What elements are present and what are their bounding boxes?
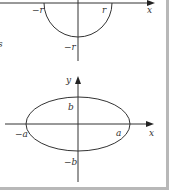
ellipse-figure: y b −a a x −b (5, 75, 154, 182)
circle-figure: −r r x −r s (0, 0, 155, 61)
frame-bottom-border (0, 187, 169, 190)
label-x-bottom: x (149, 128, 154, 138)
margin-fragment: s (0, 39, 3, 49)
frame-right-border (166, 0, 169, 189)
label-r-x: r (102, 5, 107, 15)
label-x-top: x (147, 5, 152, 15)
label-neg-b: −b (64, 157, 78, 167)
y-axis-arrow-icon (75, 76, 81, 84)
figure-panel: −r r x −r s y b −a a x −b (0, 0, 171, 195)
label-neg-r-y: −r (64, 42, 77, 52)
label-neg-r-x: −r (32, 5, 45, 15)
label-a: a (116, 128, 121, 138)
label-b: b (68, 102, 74, 112)
label-y: y (65, 75, 72, 85)
label-neg-a: −a (15, 129, 28, 139)
x-axis-arrow-bottom-icon (146, 121, 154, 127)
